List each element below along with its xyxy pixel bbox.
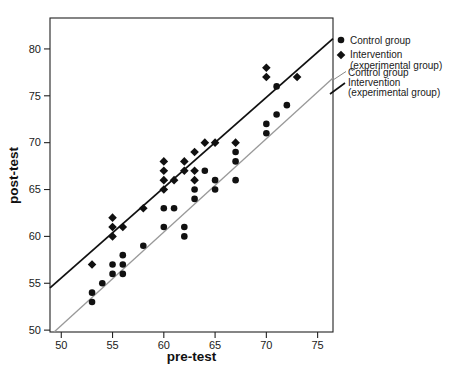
intervention-group-point	[119, 223, 128, 232]
intervention-group-point	[88, 260, 97, 269]
control-group-point	[89, 289, 96, 296]
control-fit-line	[54, 78, 333, 332]
legend-leader-line	[333, 72, 346, 81]
intervention-fit-line	[50, 39, 333, 288]
intervention-group-point	[262, 63, 271, 72]
legend-intervention-marker-icon	[337, 51, 346, 60]
y-axis-title-wrap: post-test	[0, 18, 26, 332]
y-tick-label: 70	[29, 136, 41, 148]
control-group-point	[181, 233, 188, 240]
intervention-group-point	[139, 204, 148, 213]
y-tick-label: 60	[29, 230, 41, 242]
legend-leader-line	[330, 83, 345, 94]
control-group-point	[161, 205, 168, 212]
y-tick-label: 65	[29, 183, 41, 195]
control-group-point	[181, 224, 188, 231]
control-group-point	[263, 130, 270, 137]
control-group-point	[120, 271, 127, 278]
legend-label: Control group	[348, 67, 409, 78]
control-group-point	[99, 280, 106, 287]
scatter-plot-canvas: 50556065707580505560657075Control groupI…	[0, 0, 450, 376]
intervention-group-point	[190, 176, 199, 185]
intervention-group-point	[231, 138, 240, 147]
plot-box	[50, 18, 333, 332]
intervention-group-point	[201, 138, 210, 147]
control-group-point	[273, 83, 280, 90]
legend-label: Control group	[350, 35, 411, 46]
control-group-point	[202, 167, 209, 174]
control-group-point	[232, 177, 239, 184]
control-group-point	[171, 205, 178, 212]
intervention-group-point	[108, 232, 117, 241]
y-tick-label: 55	[29, 277, 41, 289]
x-axis-title: pre-test	[50, 349, 333, 364]
control-group-point	[109, 271, 116, 278]
control-group-point	[120, 261, 127, 268]
control-group-point	[120, 252, 127, 259]
intervention-group-point	[108, 213, 117, 222]
control-group-point	[89, 299, 96, 306]
intervention-group-point	[190, 148, 199, 157]
intervention-group-point	[160, 185, 169, 194]
legend-label-line2: (experimental group)	[348, 87, 440, 98]
control-group-point	[191, 186, 198, 193]
y-axis-title: post-test	[6, 147, 21, 204]
ancova-scatter-figure: 50556065707580505560657075Control groupI…	[0, 0, 450, 376]
legend-label: Intervention	[350, 49, 402, 60]
y-tick-label: 50	[29, 324, 41, 336]
control-group-point	[273, 111, 280, 118]
intervention-group-point	[160, 166, 169, 175]
control-group-point	[212, 177, 219, 184]
intervention-group-point	[160, 176, 169, 185]
legend-control-marker-icon	[338, 37, 345, 44]
control-group-point	[263, 121, 270, 128]
control-group-point	[284, 102, 291, 109]
control-group-point	[140, 242, 147, 249]
y-tick-label: 75	[29, 90, 41, 102]
control-group-point	[109, 261, 116, 268]
control-group-point	[191, 196, 198, 203]
intervention-group-point	[160, 157, 169, 166]
intervention-group-point	[180, 157, 189, 166]
y-tick-label: 80	[29, 43, 41, 55]
control-group-point	[212, 186, 219, 193]
intervention-group-point	[190, 166, 199, 175]
intervention-group-point	[262, 73, 271, 82]
control-group-point	[232, 158, 239, 165]
control-group-point	[161, 224, 168, 231]
control-group-point	[232, 149, 239, 156]
